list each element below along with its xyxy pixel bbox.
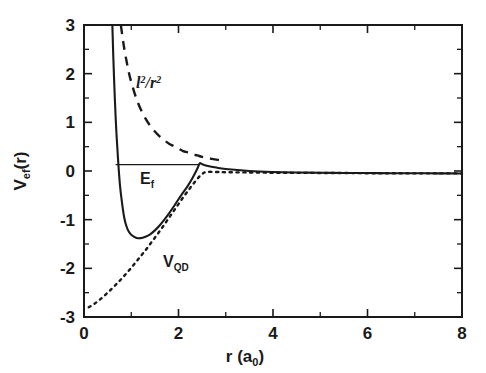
y-axis-ticks-left — [84, 25, 92, 317]
y-tick-label: -3 — [60, 308, 75, 327]
x-axis-ticks-top — [84, 25, 462, 33]
potential-label-sub: QD — [174, 262, 189, 273]
x-axis-tick-labels: 02468 — [79, 324, 466, 343]
curve-quantum-dot-potential — [89, 172, 462, 307]
x-axis-title: r (a0) — [226, 347, 264, 368]
y-axis-title-close: (r) — [11, 151, 30, 169]
x-tick-label: 2 — [174, 324, 183, 343]
y-axis-title-main: V — [11, 179, 30, 191]
y-axis-ticks-right — [454, 25, 462, 317]
y-tick-label: 1 — [66, 113, 75, 132]
centrifugal-label-mid: /r — [144, 74, 156, 91]
x-axis-ticks-bottom — [84, 309, 462, 317]
figure-root: 02468 3210-1-2-3 l2/r2 Ef VQD r (a0) — [0, 0, 486, 373]
curve-effective-potential — [112, 25, 462, 238]
annotation-fermi-level: Ef — [140, 170, 155, 190]
svg-text:r (a0): r (a0) — [226, 347, 264, 368]
potential-label-main: V — [163, 253, 174, 270]
svg-text:Ef: Ef — [140, 170, 155, 190]
y-axis-title: Vef(r) — [11, 151, 32, 190]
annotation-centrifugal: l2/r2 — [136, 74, 161, 91]
svg-text:l2/r2: l2/r2 — [136, 74, 161, 91]
y-tick-label: -2 — [60, 259, 75, 278]
plot-canvas: 02468 3210-1-2-3 l2/r2 Ef VQD r (a0) — [0, 0, 486, 373]
svg-text:Vef(r): Vef(r) — [11, 151, 32, 190]
x-tick-label: 4 — [268, 324, 278, 343]
y-tick-label: 3 — [66, 16, 75, 35]
y-axis-tick-labels: 3210-1-2-3 — [60, 16, 75, 327]
svg-text:VQD: VQD — [163, 253, 189, 273]
x-tick-label: 0 — [79, 324, 88, 343]
annotation-quantum-dot-potential: VQD — [163, 253, 189, 273]
x-tick-label: 6 — [363, 324, 372, 343]
centrifugal-label-sup2: 2 — [155, 74, 161, 85]
y-axis-title-sub: ef — [20, 169, 32, 179]
x-tick-label: 8 — [457, 324, 466, 343]
x-axis-title-close: ) — [258, 347, 264, 366]
x-axis-title-main: r (a — [226, 347, 253, 366]
fermi-label-main: E — [140, 170, 151, 187]
y-tick-label: 0 — [66, 162, 75, 181]
y-tick-label: -1 — [60, 211, 75, 230]
fermi-label-sub: f — [151, 179, 155, 190]
curve-centrifugal-barrier — [121, 25, 226, 161]
y-tick-label: 2 — [66, 65, 75, 84]
